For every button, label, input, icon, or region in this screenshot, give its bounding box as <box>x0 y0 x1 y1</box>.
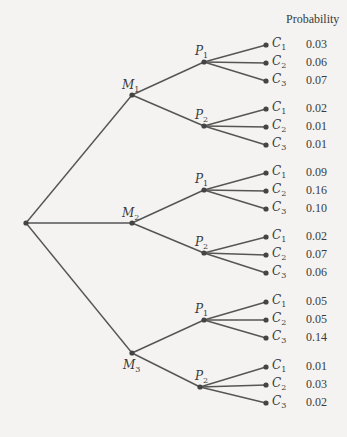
branch-line <box>200 387 266 403</box>
branch-line <box>204 126 266 145</box>
probability-column-header: Probability <box>286 12 339 27</box>
branch-line <box>204 237 266 253</box>
p-label: P1 <box>195 302 208 318</box>
leaf-node <box>263 78 268 83</box>
leaf-node <box>263 400 268 405</box>
leaf-label: C1 <box>272 228 286 244</box>
leaf-node <box>263 124 268 129</box>
probability-value: 0.01 <box>306 119 327 134</box>
m-label: M3 <box>123 358 140 374</box>
branch-line <box>200 367 266 387</box>
probability-value: 0.02 <box>306 395 327 410</box>
probability-tree-diagram: Probability C10.03C20.06C30.07P1C10.02C2… <box>0 0 347 437</box>
leaf-node <box>263 335 268 340</box>
branch-line <box>204 190 266 191</box>
probability-value: 0.05 <box>306 294 327 309</box>
p-label: P2 <box>195 108 208 124</box>
branch-line <box>26 223 132 353</box>
probability-value: 0.06 <box>306 265 327 280</box>
m-label: M1 <box>122 78 139 94</box>
leaf-label: C2 <box>272 118 286 134</box>
probability-value: 0.09 <box>306 165 327 180</box>
branch-line <box>26 95 132 223</box>
leaf-label: C2 <box>272 376 286 392</box>
branch-line <box>204 109 266 126</box>
branch-line <box>204 62 266 63</box>
branch-line <box>132 353 200 387</box>
p-label: P1 <box>195 44 208 60</box>
p-label: P2 <box>195 235 208 251</box>
branch-line <box>204 253 266 273</box>
branch-line <box>132 223 204 253</box>
leaf-node <box>263 142 268 147</box>
leaf-node <box>263 317 268 322</box>
probability-value: 0.03 <box>306 377 327 392</box>
leaf-node <box>263 364 268 369</box>
probability-value: 0.06 <box>306 55 327 70</box>
probability-value: 0.10 <box>306 201 327 216</box>
leaf-label: C3 <box>272 329 286 345</box>
leaf-label: C1 <box>272 358 286 374</box>
branch-line <box>204 62 266 81</box>
leaf-node <box>263 382 268 387</box>
leaf-node <box>263 270 268 275</box>
leaf-node <box>263 60 268 65</box>
leaf-label: C3 <box>272 72 286 88</box>
branch-line <box>204 45 266 62</box>
leaf-label: C3 <box>272 394 286 410</box>
leaf-label: C2 <box>272 182 286 198</box>
leaf-node <box>263 106 268 111</box>
branch-line <box>204 173 266 190</box>
branch-line <box>132 62 204 95</box>
leaf-label: C2 <box>272 311 286 327</box>
probability-value: 0.14 <box>306 330 327 345</box>
probability-value: 0.01 <box>306 359 327 374</box>
branch-line <box>204 320 266 338</box>
leaf-node <box>263 42 268 47</box>
leaf-label: C1 <box>272 100 286 116</box>
branch-line <box>132 190 204 223</box>
probability-value: 0.05 <box>306 312 327 327</box>
branch-line <box>132 95 204 126</box>
probability-value: 0.02 <box>306 101 327 116</box>
branch-line <box>204 253 266 255</box>
leaf-label: C3 <box>272 264 286 280</box>
probability-value: 0.07 <box>306 247 327 262</box>
branch-line <box>204 126 266 127</box>
m-label: M2 <box>122 206 139 222</box>
leaf-node <box>263 206 268 211</box>
branch-line <box>204 302 266 320</box>
p-label: P2 <box>195 369 208 385</box>
leaf-node <box>263 299 268 304</box>
branch-line <box>200 385 266 387</box>
probability-value: 0.03 <box>306 37 327 52</box>
probability-value: 0.01 <box>306 137 327 152</box>
leaf-label: C1 <box>272 293 286 309</box>
p-label: P1 <box>195 172 208 188</box>
leaf-label: C3 <box>272 136 286 152</box>
probability-value: 0.07 <box>306 73 327 88</box>
probability-value: 0.02 <box>306 229 327 244</box>
leaf-label: C3 <box>272 200 286 216</box>
probability-value: 0.16 <box>306 183 327 198</box>
leaf-label: C1 <box>272 36 286 52</box>
leaf-label: C2 <box>272 54 286 70</box>
leaf-label: C1 <box>272 164 286 180</box>
leaf-node <box>263 170 268 175</box>
root-node <box>23 220 28 225</box>
leaf-label: C2 <box>272 246 286 262</box>
leaf-node <box>263 234 268 239</box>
leaf-node <box>263 188 268 193</box>
m-node <box>129 350 134 355</box>
tree-lines <box>0 0 347 437</box>
leaf-node <box>263 252 268 257</box>
branch-line <box>204 190 266 209</box>
branch-line <box>132 320 204 353</box>
